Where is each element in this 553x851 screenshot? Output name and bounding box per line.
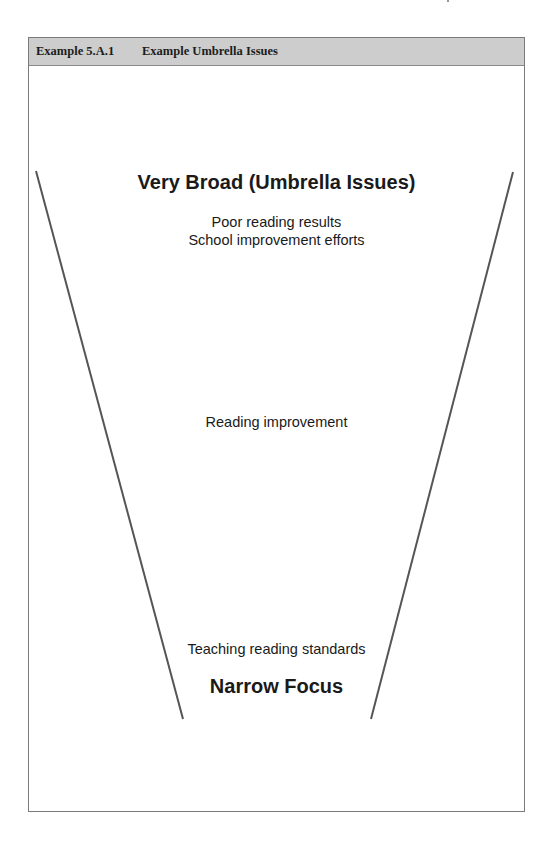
- funnel-middle-item: Reading improvement: [0, 413, 553, 431]
- funnel-broad-item-2: School improvement efforts: [0, 231, 553, 249]
- funnel-bottom-label: Narrow Focus: [0, 675, 553, 698]
- funnel-right-line: [371, 172, 513, 719]
- funnel-top-label: Very Broad (Umbrella Issues): [0, 171, 553, 194]
- funnel-narrow-item: Teaching reading standards: [0, 640, 553, 658]
- funnel-left-line: [36, 171, 183, 719]
- funnel-broad-item-1: Poor reading results: [0, 213, 553, 231]
